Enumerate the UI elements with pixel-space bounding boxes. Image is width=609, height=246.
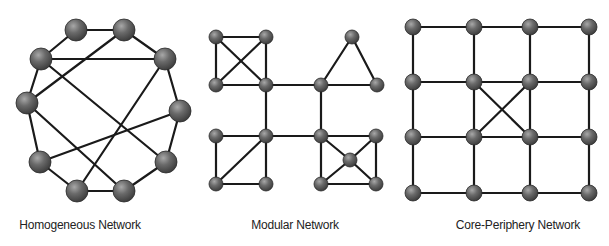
node [259, 129, 273, 143]
edge [41, 59, 166, 162]
node [466, 74, 482, 90]
node [314, 177, 328, 191]
modular-network-diagram [209, 30, 384, 191]
node [259, 78, 273, 92]
node [30, 48, 52, 70]
node [169, 100, 191, 122]
core-periphery-network-diagram [405, 19, 597, 201]
edge [352, 37, 377, 85]
node [259, 177, 273, 191]
node [405, 129, 421, 145]
node [314, 129, 328, 143]
caption-homogeneous-network: Homogeneous Network [19, 218, 141, 232]
node [259, 30, 273, 44]
node [522, 19, 538, 35]
node [65, 19, 87, 41]
node [154, 48, 176, 70]
node [29, 151, 51, 173]
node [405, 19, 421, 35]
node [522, 129, 538, 145]
caption-modular-network: Modular Network [251, 218, 339, 232]
node [155, 151, 177, 173]
node [209, 78, 223, 92]
node [581, 129, 597, 145]
node [370, 78, 384, 92]
node [405, 185, 421, 201]
node [581, 19, 597, 35]
homogeneous-network-diagram [16, 19, 191, 202]
node [369, 129, 383, 143]
node [522, 74, 538, 90]
edge [321, 37, 352, 85]
edges [413, 27, 589, 193]
node [209, 30, 223, 44]
node [113, 180, 135, 202]
edge [216, 136, 266, 184]
node [369, 177, 383, 191]
node [345, 30, 359, 44]
node [581, 74, 597, 90]
node [314, 78, 328, 92]
node [466, 19, 482, 35]
node [209, 177, 223, 191]
node [581, 185, 597, 201]
node [209, 129, 223, 143]
node [16, 92, 38, 114]
node [343, 153, 357, 167]
node [466, 185, 482, 201]
node [405, 74, 421, 90]
node [466, 129, 482, 145]
caption-core-periphery-network: Core-Periphery Network [456, 218, 580, 232]
network-figure [0, 0, 609, 246]
node [66, 180, 88, 202]
node [522, 185, 538, 201]
node [113, 19, 135, 41]
